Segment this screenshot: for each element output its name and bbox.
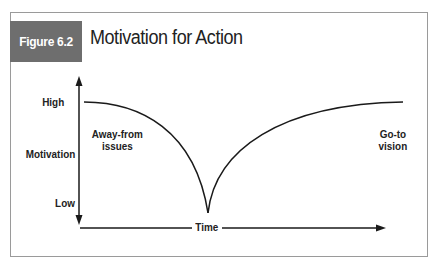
away-from-line2: issues [92, 140, 143, 152]
motivation-diagram [0, 0, 438, 267]
y-axis-label: Motivation [26, 148, 76, 160]
down-arrow-icon [76, 215, 83, 225]
y-high-label: High [42, 96, 64, 108]
up-arrow-icon [76, 76, 83, 86]
go-to-curve [208, 102, 403, 213]
x-axis-label: Time [195, 221, 218, 233]
away-from-annotation: Away-from issues [92, 128, 143, 152]
away-from-curve [84, 102, 208, 213]
right-arrow-icon [376, 225, 386, 232]
go-to-annotation: Go-to vision [379, 128, 408, 152]
away-from-line1: Away-from [92, 128, 143, 140]
go-to-line2: vision [379, 140, 408, 152]
y-low-label: Low [55, 197, 75, 209]
go-to-line1: Go-to [379, 128, 408, 140]
